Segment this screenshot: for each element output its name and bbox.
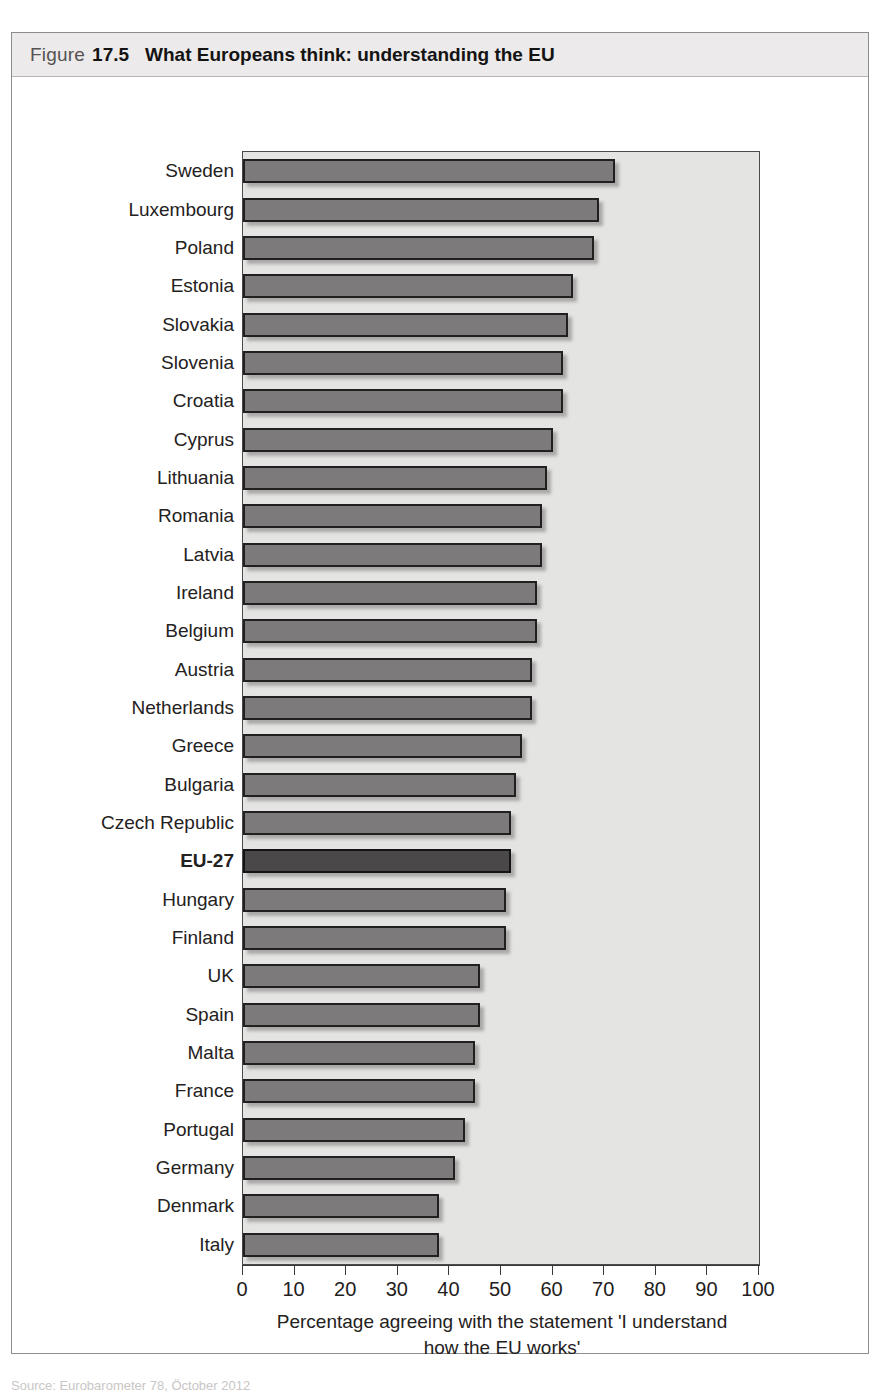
category-label: Slovenia	[161, 352, 234, 374]
x-tick	[500, 1265, 501, 1275]
x-axis-caption-line-2: how the EU works'	[162, 1335, 842, 1361]
x-tick-label: 30	[386, 1278, 408, 1301]
category-label: Sweden	[165, 160, 234, 182]
bar-row: Italy	[243, 1226, 759, 1264]
bar-row: Greece	[243, 727, 759, 765]
bar	[243, 734, 522, 758]
x-axis-caption: Percentage agreeing with the statement '…	[162, 1309, 842, 1361]
bar	[243, 811, 511, 835]
x-tick-label: 20	[334, 1278, 356, 1301]
figure-label: Figure	[30, 44, 85, 66]
figure-title: What Europeans think: understanding the …	[145, 44, 555, 66]
x-tick	[448, 1265, 449, 1275]
category-label: Lithuania	[157, 467, 234, 489]
bar-row: Romania	[243, 497, 759, 535]
category-label: Estonia	[171, 275, 234, 297]
bar	[243, 1194, 439, 1218]
bar-row: Slovenia	[243, 344, 759, 382]
x-tick-label: 0	[236, 1278, 247, 1301]
bar-row: Malta	[243, 1034, 759, 1072]
x-tick	[603, 1265, 604, 1275]
x-axis-ticks: 0102030405060708090100	[242, 1265, 758, 1305]
bar-row: Belgium	[243, 612, 759, 650]
bar	[243, 1003, 480, 1027]
chart-area: SwedenLuxembourgPolandEstoniaSlovakiaSlo…	[12, 77, 868, 1353]
bar-row: EU-27	[243, 842, 759, 880]
bar	[243, 313, 568, 337]
bar	[243, 926, 506, 950]
category-label: Latvia	[183, 544, 234, 566]
category-label: Germany	[156, 1157, 234, 1179]
bar-row: Germany	[243, 1149, 759, 1187]
bar	[243, 1233, 439, 1257]
category-label: Denmark	[157, 1195, 234, 1217]
x-tick-label: 10	[282, 1278, 304, 1301]
category-label: Czech Republic	[101, 812, 234, 834]
figure-number: 17.5	[92, 44, 129, 66]
x-tick-label: 50	[489, 1278, 511, 1301]
bar-row: Sweden	[243, 152, 759, 190]
x-tick	[552, 1265, 553, 1275]
category-label: Romania	[158, 505, 234, 527]
category-label: Belgium	[165, 620, 234, 642]
bar-row: Denmark	[243, 1187, 759, 1225]
category-label: Ireland	[176, 582, 234, 604]
category-label: Croatia	[173, 390, 234, 412]
bar-row: Austria	[243, 650, 759, 688]
bar-row: Ireland	[243, 574, 759, 612]
bar-row: France	[243, 1072, 759, 1110]
category-label: Slovakia	[162, 314, 234, 336]
bar	[243, 696, 532, 720]
bar-row: Croatia	[243, 382, 759, 420]
bar-row: Finland	[243, 919, 759, 957]
x-tick	[294, 1265, 295, 1275]
bar	[243, 1118, 465, 1142]
category-label: Malta	[188, 1042, 234, 1064]
bar-row: Lithuania	[243, 459, 759, 497]
x-tick	[345, 1265, 346, 1275]
category-label: Greece	[172, 735, 234, 757]
category-label: France	[175, 1080, 234, 1102]
x-tick-label: 40	[437, 1278, 459, 1301]
x-tick	[706, 1265, 707, 1275]
x-tick-label: 70	[592, 1278, 614, 1301]
x-tick-label: 80	[644, 1278, 666, 1301]
bar-row: Latvia	[243, 535, 759, 573]
bar	[243, 236, 594, 260]
bar-row: Poland	[243, 229, 759, 267]
bar	[243, 849, 511, 873]
bar-rows: SwedenLuxembourgPolandEstoniaSlovakiaSlo…	[243, 152, 759, 1264]
category-label: Cyprus	[174, 429, 234, 451]
bar-row: UK	[243, 957, 759, 995]
figure-frame: Figure 17.5 What Europeans think: unders…	[11, 32, 869, 1354]
x-tick-label: 90	[695, 1278, 717, 1301]
bar	[243, 351, 563, 375]
bar-row: Portugal	[243, 1111, 759, 1149]
bar	[243, 543, 542, 567]
category-label: Netherlands	[132, 697, 234, 719]
x-tick-label: 100	[741, 1278, 774, 1301]
bar	[243, 1156, 455, 1180]
category-label: UK	[208, 965, 234, 987]
bar	[243, 888, 506, 912]
bar-row: Czech Republic	[243, 804, 759, 842]
bar	[243, 389, 563, 413]
bar-row: Netherlands	[243, 689, 759, 727]
category-label: Spain	[185, 1004, 234, 1026]
x-tick	[242, 1265, 243, 1275]
bar-row: Bulgaria	[243, 766, 759, 804]
category-label: Bulgaria	[164, 774, 234, 796]
plot-region: SwedenLuxembourgPolandEstoniaSlovakiaSlo…	[242, 151, 760, 1265]
category-label: Austria	[175, 659, 234, 681]
source-note: Source: Eurobarometer 78, Öctober 2012	[11, 1378, 250, 1393]
category-label: Poland	[175, 237, 234, 259]
bar-row: Spain	[243, 996, 759, 1034]
bar-row: Slovakia	[243, 305, 759, 343]
bar	[243, 581, 537, 605]
category-label: Italy	[199, 1234, 234, 1256]
category-label: Portugal	[163, 1119, 234, 1141]
bar	[243, 428, 553, 452]
bar	[243, 964, 480, 988]
bar-row: Luxembourg	[243, 190, 759, 228]
x-axis-caption-line-1: Percentage agreeing with the statement '…	[162, 1309, 842, 1335]
